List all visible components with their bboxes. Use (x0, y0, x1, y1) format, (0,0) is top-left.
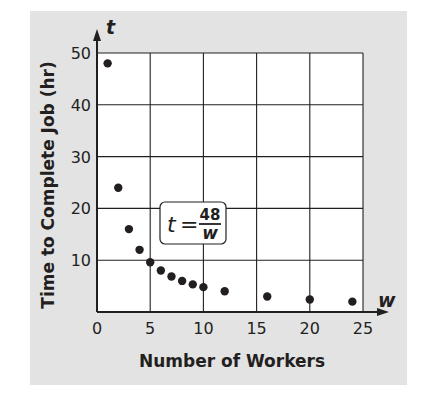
equation-denominator: w (202, 223, 218, 243)
x-tick-label: 25 (353, 319, 373, 338)
y-tick-label: 50 (71, 44, 91, 63)
data-point (199, 283, 207, 291)
x-axis-variable: w (378, 289, 396, 311)
y-axis-label: Time to Complete Job (hr) (38, 61, 58, 308)
data-point (125, 225, 133, 233)
data-point (157, 266, 165, 274)
data-point (167, 272, 175, 280)
y-axis-variable: t (106, 16, 116, 38)
equation-equals: = (180, 212, 198, 237)
x-axis-label: Number of Workers (139, 351, 325, 371)
data-point (135, 246, 143, 254)
equation-annotation: t = 48 w (160, 202, 226, 244)
plot-area (97, 53, 363, 312)
data-point (189, 280, 197, 288)
data-point (306, 295, 314, 303)
x-tick-label: 15 (246, 319, 266, 338)
data-point (146, 258, 154, 266)
y-tick-label: 10 (71, 251, 91, 270)
x-tick-label: 5 (145, 319, 155, 338)
x-tick-label: 0 (92, 319, 102, 338)
data-point (348, 297, 356, 305)
data-point (114, 183, 122, 191)
data-point (220, 287, 228, 295)
data-point (263, 292, 271, 300)
y-tick-label: 20 (71, 199, 91, 218)
x-tick-label: 20 (300, 319, 320, 338)
y-axis-arrow-icon (93, 29, 101, 41)
scatter-chart: 05101520251020304050 Time to Complete Jo… (0, 0, 429, 406)
x-tick-label: 10 (193, 319, 213, 338)
data-point (178, 277, 186, 285)
equation-lhs: t (167, 212, 177, 237)
y-tick-label: 30 (71, 148, 91, 167)
y-tick-label: 40 (71, 96, 91, 115)
equation-numerator: 48 (200, 206, 221, 224)
data-point (103, 59, 111, 67)
